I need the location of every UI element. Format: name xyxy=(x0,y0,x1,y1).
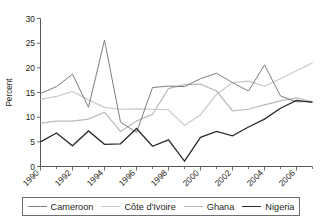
series-line-ghana xyxy=(41,84,313,131)
y-tick-label: 10 xyxy=(26,112,36,122)
legend-entry-ghana[interactable]: Ghana xyxy=(184,202,235,212)
x-tick-label: 1996 xyxy=(117,168,137,188)
chart-figure: 051015202530Percent199019921994199619982… xyxy=(0,0,322,223)
legend-label: Nigeria xyxy=(265,202,294,212)
y-axis-title: Percent xyxy=(5,78,14,107)
y-tick-label: 30 xyxy=(26,14,36,24)
y-tick-label: 5 xyxy=(30,137,35,147)
x-tick-label: 2006 xyxy=(277,168,297,188)
x-tick-label: 1992 xyxy=(53,168,73,188)
x-tick-label: 1990 xyxy=(21,168,41,188)
series-line-nigeria xyxy=(41,100,313,161)
legend-entry-cameroon[interactable]: Cameroon xyxy=(28,202,94,212)
legend-swatch-line-icon xyxy=(242,206,261,207)
legend-entry-nigeria[interactable]: Nigeria xyxy=(242,202,294,212)
chart-legend: CameroonCôte d'IvoireGhanaNigeria xyxy=(22,197,300,216)
x-tick-label: 2000 xyxy=(181,168,201,188)
legend-swatch-line-icon xyxy=(184,206,203,207)
x-tick-label: 1998 xyxy=(149,168,169,188)
legend-entry-c-te-d-ivoire[interactable]: Côte d'Ivoire xyxy=(101,202,175,212)
x-tick-label: 2002 xyxy=(213,168,233,188)
x-tick-label: 1994 xyxy=(85,168,105,188)
legend-label: Cameroon xyxy=(51,202,94,212)
x-tick-label: 2004 xyxy=(245,168,265,188)
y-tick-label: 20 xyxy=(26,63,36,73)
legend-label: Ghana xyxy=(207,202,235,212)
line-chart-plot: 051015202530Percent199019921994199619982… xyxy=(0,0,322,223)
legend-swatch-line-icon xyxy=(101,206,120,207)
y-tick-label: 15 xyxy=(26,88,36,98)
legend-label: Côte d'Ivoire xyxy=(124,202,175,212)
legend-swatch-line-icon xyxy=(28,206,47,207)
y-tick-label: 25 xyxy=(26,38,36,48)
series-line-c-te-d-ivoire xyxy=(41,63,313,126)
series-line-cameroon xyxy=(41,40,313,132)
